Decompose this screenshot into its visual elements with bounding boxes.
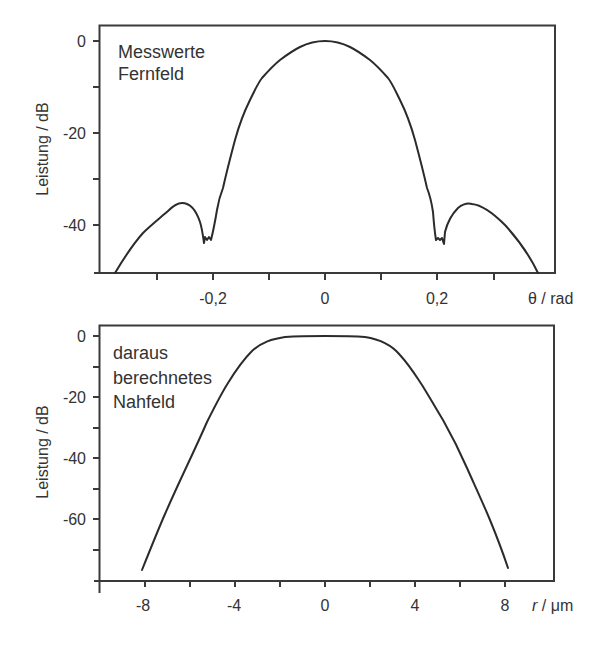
farfield-y-axis-label: Leistung / dB <box>34 102 51 195</box>
nearfield-annotation-line1: daraus <box>113 343 168 363</box>
farfield-xtick-label: -0,2 <box>199 290 227 307</box>
nearfield-xtick-label: 8 <box>501 597 510 614</box>
nearfield-annotation-line2: berechnetes <box>113 368 212 388</box>
farfield-annotation-line1: Messwerte <box>118 42 205 62</box>
farfield-y-ticks <box>93 41 99 225</box>
farfield-annotation-line2: Fernfeld <box>118 64 184 84</box>
nearfield-ytick-label: -20 <box>63 389 86 406</box>
nearfield-xtick-label: 4 <box>411 597 420 614</box>
nearfield-plot-frame <box>100 326 555 582</box>
nearfield-ytick-label: -60 <box>63 511 86 528</box>
farfield-x-axis-label: θ / rad <box>528 290 573 307</box>
farfield-plot: 0 -20 -40 -0,2 0 0,2 Leistung / dB θ / r… <box>34 26 573 308</box>
nearfield-y-ticks <box>93 336 99 550</box>
nearfield-annotation: daraus berechnetes Nahfeld <box>113 343 217 412</box>
nearfield-ytick-label: 0 <box>77 328 86 345</box>
nearfield-xtick-label: 0 <box>321 597 330 614</box>
nearfield-plot: 0 -20 -40 -60 -8 -4 0 4 8 Leistung / dB … <box>34 326 573 615</box>
nearfield-xtick-label: -4 <box>227 597 241 614</box>
farfield-ytick-label: 0 <box>77 33 86 50</box>
farfield-ytick-label: -40 <box>63 217 86 234</box>
farfield-ytick-label: -20 <box>63 125 86 142</box>
nearfield-x-axis-unit: / μm <box>537 597 573 614</box>
nearfield-x-axis-label: r / μm <box>532 597 573 614</box>
farfield-annotation: Messwerte Fernfeld <box>118 42 210 84</box>
farfield-xtick-label: 0,2 <box>426 290 448 307</box>
nearfield-ytick-label: -40 <box>63 450 86 467</box>
nearfield-y-axis-label: Leistung / dB <box>34 405 51 498</box>
figure: 0 -20 -40 -0,2 0 0,2 Leistung / dB θ / r… <box>0 0 602 645</box>
nearfield-xtick-label: -8 <box>136 597 150 614</box>
farfield-x-ticks <box>157 273 494 280</box>
farfield-xtick-label: 0 <box>321 290 330 307</box>
farfield-plot-frame <box>100 26 556 274</box>
nearfield-annotation-line3: Nahfeld <box>113 392 175 412</box>
